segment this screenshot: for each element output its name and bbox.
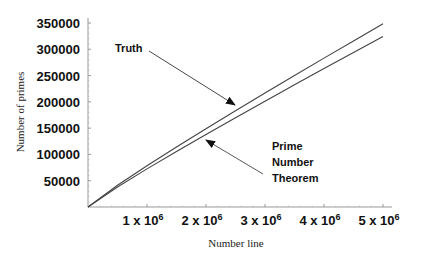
- annotation-pnt: Prime Number Theorem: [206, 140, 319, 184]
- y-tick-label: 50000: [44, 174, 80, 189]
- y-tick-label: 200000: [37, 95, 80, 110]
- annotation-truth: Truth: [115, 42, 235, 105]
- y-tick-label: 350000: [37, 16, 80, 31]
- annotation-truth-label: Truth: [115, 42, 143, 54]
- x-axis-title: Number line: [208, 237, 263, 249]
- arrow-pnt-icon: [206, 140, 263, 174]
- x-tick-label: 3 x 106: [240, 212, 281, 228]
- x-tick-label: 1 x 106: [122, 212, 163, 228]
- x-tick-label: 4 x 106: [299, 212, 340, 228]
- annotation-pnt-line1: Prime: [272, 140, 303, 152]
- annotation-pnt-line3: Theorem: [272, 172, 319, 184]
- y-tick-label: 100000: [37, 147, 80, 162]
- x-tick-label: 2 x 106: [181, 212, 222, 228]
- y-tick-label: 300000: [37, 42, 80, 57]
- y-tick-label: 150000: [37, 121, 80, 136]
- annotation-pnt-line2: Number: [272, 156, 314, 168]
- series-pnt-line: [88, 37, 383, 207]
- y-axis-title: Number of primes: [14, 72, 26, 153]
- x-ticks: 1 x 1062 x 1063 x 1064 x 1065 x 106: [100, 204, 400, 228]
- y-ticks: 5000010000015000020000025000030000035000…: [37, 16, 91, 202]
- prime-count-chart: 5000010000015000020000025000030000035000…: [0, 0, 421, 256]
- y-tick-label: 250000: [37, 69, 80, 84]
- arrow-truth-icon: [149, 51, 235, 105]
- x-tick-label: 5 x 106: [358, 212, 399, 228]
